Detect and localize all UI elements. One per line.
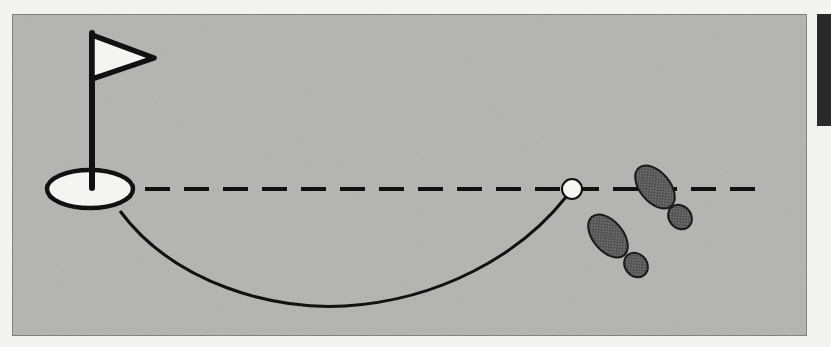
putting-diagram bbox=[0, 0, 831, 347]
diagram-canvas bbox=[0, 0, 831, 347]
side-tab bbox=[817, 14, 831, 126]
golf-ball bbox=[562, 179, 582, 199]
